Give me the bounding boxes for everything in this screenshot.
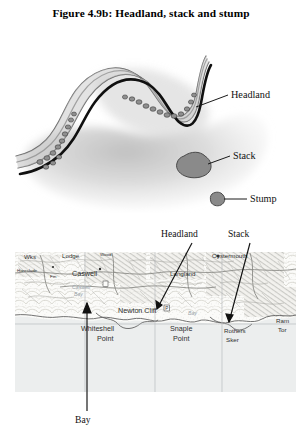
headland-diagram: Headland Stack Stump xyxy=(0,28,302,213)
map-label-whiteshell-2: Point xyxy=(97,334,113,343)
figure-title: Figure 4.9b: Headland, stack and stump xyxy=(0,7,302,19)
map-label-oystermouth: Oystermouth xyxy=(212,252,248,259)
map-label-rothers-1: Rothers xyxy=(224,327,246,334)
map-label-wood: Wood xyxy=(100,252,112,257)
diagram-label-stack: Stack xyxy=(233,150,257,161)
map-label-bay-sea: Bay xyxy=(188,310,197,316)
os-map-panel: P Wks Lodge Caswell xyxy=(0,225,302,431)
map-sea xyxy=(15,317,296,392)
map-label-lodge: Lodge xyxy=(62,252,80,259)
map-label-caswell: Caswell xyxy=(72,269,98,278)
map-label-newton-cliff: Newton Cliff xyxy=(118,306,157,315)
map-label-tor: Tor xyxy=(278,326,287,333)
diagram-label-headland: Headland xyxy=(231,89,270,100)
map-callout-bay: Bay xyxy=(75,414,91,425)
stump-landform xyxy=(210,192,224,206)
map-label-wks: Wks xyxy=(24,253,36,260)
map-label-whiteshell-1: Whiteshell xyxy=(81,324,115,333)
figure-container: Figure 4.9b: Headland, stack and stump xyxy=(0,0,302,431)
map-label-hareslade: Hareslade xyxy=(17,268,38,273)
map-callout-headland: Headland xyxy=(161,228,198,239)
map-callout-stack: Stack xyxy=(228,228,250,239)
map-label-fm: Fm xyxy=(50,274,57,279)
map-body: P Wks Lodge Caswell xyxy=(15,252,296,392)
map-label-ram: Ram xyxy=(276,317,289,324)
map-label-caswell-bay-2: Bay xyxy=(74,291,83,297)
svg-text:P: P xyxy=(165,306,168,311)
os-map: P Wks Lodge Caswell xyxy=(0,225,302,431)
map-label-rothers-2: Sker xyxy=(226,336,239,343)
map-label-snaple-1: Snaple xyxy=(170,324,192,333)
map-label-snaple-2: Point xyxy=(173,334,189,343)
map-label-caswell-bay-1: Caswell xyxy=(72,284,91,290)
diagram-label-stump: Stump xyxy=(250,193,277,204)
